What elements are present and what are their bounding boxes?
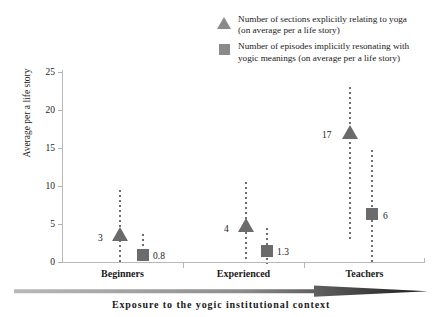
- error-bar-teachers-sections: [349, 87, 351, 239]
- data-point-beginners-episodes: [137, 249, 149, 261]
- exposure-arrow-icon: [14, 285, 428, 299]
- x-axis-line: [62, 262, 425, 263]
- y-tick-label-10: 10: [33, 181, 55, 191]
- data-label-beginners-episodes: 0.8: [153, 251, 165, 261]
- data-label-teachers-sections: 17: [322, 130, 332, 140]
- x-category-beginners: Beginners: [62, 268, 183, 279]
- x-axis-right-endcap: [424, 258, 425, 263]
- x-category-teachers: Teachers: [304, 268, 425, 279]
- y-tick-label-15: 15: [33, 143, 55, 153]
- data-point-experienced-episodes: [261, 245, 273, 257]
- y-axis-label: Average per a life story: [22, 28, 32, 198]
- x-category-experienced: Experienced: [183, 268, 304, 279]
- error-bar-beginners-sections: [119, 190, 121, 262]
- y-tick-label-5: 5: [33, 219, 55, 229]
- data-label-beginners-sections: 3: [98, 233, 103, 243]
- x-axis-caption: Exposure to the yogic institutional cont…: [0, 299, 442, 310]
- data-point-teachers-sections: [342, 125, 358, 139]
- y-tick-label-0: 0: [33, 257, 55, 267]
- error-bar-teachers-episodes: [371, 150, 373, 262]
- chart-plot-area: Average per a life story 0 5 10 15 20 25…: [0, 0, 442, 317]
- data-point-teachers-episodes: [366, 208, 378, 220]
- data-point-beginners-sections: [112, 227, 128, 241]
- data-label-experienced-episodes: 1.3: [277, 247, 289, 257]
- y-axis-line: [62, 70, 63, 263]
- data-label-teachers-episodes: 6: [383, 211, 388, 221]
- x-axis-left-endcap: [62, 258, 63, 263]
- y-tick-label-25: 25: [33, 67, 55, 77]
- data-label-experienced-sections: 4: [224, 224, 229, 234]
- y-tick-label-20: 20: [33, 105, 55, 115]
- data-point-experienced-sections: [238, 218, 254, 232]
